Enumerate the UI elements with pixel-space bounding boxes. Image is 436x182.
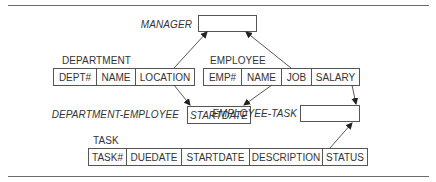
arrow-name-to-department-employee — [244, 85, 272, 105]
arrow-status-to-employee-task — [330, 123, 352, 148]
arrow-job-to-manager — [246, 32, 291, 68]
arrow-location-to-department-employee — [174, 85, 190, 105]
dependency-arrows — [0, 0, 436, 182]
arrow-salary-to-employee-task — [352, 85, 356, 104]
arrow-location-to-manager — [174, 32, 207, 68]
